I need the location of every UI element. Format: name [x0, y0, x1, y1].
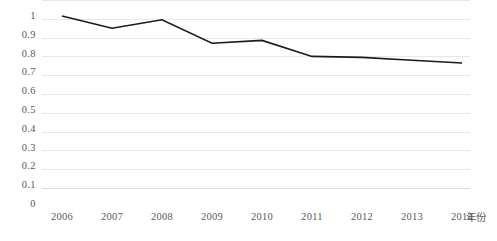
x-tick-label-2010: 2010: [237, 212, 287, 223]
x-tick-label-2008: 2008: [137, 212, 187, 223]
line-chart: 10.90.80.70.60.50.40.30.20.10 2006200720…: [0, 0, 497, 241]
x-tick-label-2007: 2007: [87, 212, 137, 223]
series-layer: [0, 0, 497, 241]
x-tick-label-2009: 2009: [187, 212, 237, 223]
data-line: [62, 16, 462, 63]
x-tick-label-2012: 2012: [337, 212, 387, 223]
x-axis-title: 年份: [466, 212, 486, 223]
x-tick-label-2006: 2006: [37, 212, 87, 223]
x-tick-label-2013: 2013: [387, 212, 437, 223]
x-tick-label-2011: 2011: [287, 212, 337, 223]
